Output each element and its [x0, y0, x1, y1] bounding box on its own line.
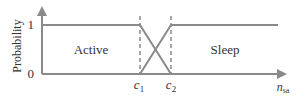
x-tick-label-c1: c1	[134, 77, 144, 94]
y-axis-arrow-icon	[37, 6, 47, 16]
x-axis-label: nsa	[277, 80, 290, 95]
y-axis-label: Probability	[10, 19, 24, 72]
y-tick-label-0: 0	[28, 66, 35, 81]
y-tick-label-1: 1	[28, 17, 35, 32]
region-label-sleep: Sleep	[211, 42, 240, 57]
x-tick-label-c2: c2	[166, 77, 176, 94]
membership-chart: 1 0 Probability Active Sleep c1 c2 nsa	[0, 0, 305, 96]
region-label-active: Active	[74, 42, 109, 57]
x-axis-arrow-icon	[277, 69, 287, 79]
